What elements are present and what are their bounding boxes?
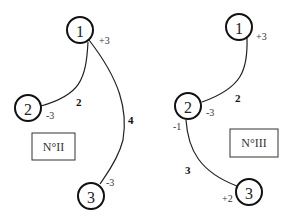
node-label: 3 — [245, 185, 253, 202]
node-3: 3 — [78, 183, 104, 209]
diagram-label-box: N°III — [230, 129, 278, 157]
node-3-charge: -3 — [106, 177, 114, 188]
edge-weight-1-2: 2 — [235, 92, 241, 104]
diagram-canvas: 2 4 1 2 3 +3 -3 -3 N°II 2 3 — [0, 0, 300, 220]
node-1-charge: +3 — [256, 31, 267, 42]
edge-1-3 — [89, 40, 124, 184]
node-3-charge: +2 — [222, 193, 233, 204]
node-label: 2 — [184, 99, 192, 116]
diagram-label: N°III — [241, 136, 266, 150]
node-label: 1 — [76, 23, 84, 40]
node-1-charge: +3 — [99, 35, 110, 46]
node-2-charge: -3 — [46, 110, 54, 121]
diagram-label-box: N°II — [32, 133, 75, 160]
node-2-secondary-charge: -1 — [173, 121, 181, 132]
node-1: 1 — [226, 14, 252, 40]
edge-weight-1-3: 4 — [128, 114, 134, 126]
diagram-ii: 2 4 1 2 3 +3 -3 -3 N°II — [15, 17, 134, 209]
node-2: 2 — [15, 95, 41, 121]
node-label: 2 — [24, 101, 32, 118]
diagram-iii: 2 3 1 2 3 +3 -3 -1 +2 N°III — [173, 14, 278, 205]
node-1: 1 — [67, 17, 93, 43]
node-label: 1 — [235, 20, 243, 37]
node-3: 3 — [236, 179, 262, 205]
node-label: 3 — [87, 189, 95, 206]
edge-weight-2-3: 3 — [185, 164, 191, 176]
node-2-charge: -3 — [206, 107, 214, 118]
edge-weight-1-2: 2 — [76, 96, 82, 108]
edge-2-3 — [186, 120, 237, 186]
diagram-label: N°II — [43, 140, 64, 154]
node-2: 2 — [175, 93, 201, 119]
